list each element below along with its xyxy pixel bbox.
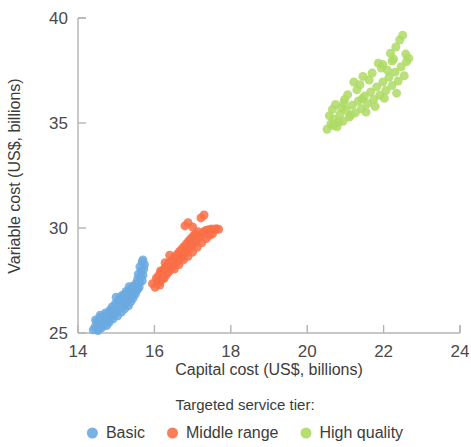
series-middle-range	[148, 210, 223, 291]
data-point	[339, 99, 348, 108]
data-point	[188, 222, 197, 231]
x-tick-label: 16	[145, 342, 164, 361]
data-point	[388, 57, 397, 66]
series-basic	[89, 255, 149, 335]
scatter-plot-canvas: 25303540 141618202224 Capital cost (US$,…	[0, 0, 471, 447]
data-point	[380, 94, 389, 103]
y-axis-ticks: 25303540	[49, 9, 86, 343]
data-point	[133, 285, 142, 294]
legend-title: Targeted service tier:	[175, 396, 314, 413]
data-point	[325, 111, 334, 120]
y-tick-label: 40	[49, 9, 68, 28]
data-point	[180, 221, 189, 230]
data-point	[401, 50, 410, 59]
data-point	[392, 89, 401, 98]
x-tick-label: 14	[69, 342, 88, 361]
scatter-chart-figure: 25303540 141618202224 Capital cost (US$,…	[0, 0, 471, 447]
data-point	[349, 78, 358, 87]
x-axis-ticks: 141618202224	[69, 325, 470, 361]
data-point	[197, 213, 206, 222]
data-point	[329, 121, 338, 130]
data-point	[352, 85, 361, 94]
x-tick-label: 22	[374, 342, 393, 361]
data-point	[371, 102, 380, 111]
x-axis-title: Capital cost (US$, billions)	[175, 361, 363, 378]
data-point	[358, 94, 367, 103]
data-point	[391, 42, 400, 51]
series-high-quality	[323, 31, 414, 134]
data-point	[358, 72, 367, 81]
legend-label-high-quality[interactable]: High quality	[320, 424, 404, 441]
data-point	[125, 282, 134, 291]
data-point	[138, 255, 147, 264]
legend-label-middle-range[interactable]: Middle range	[186, 424, 279, 441]
legend-marker-basic[interactable]	[87, 428, 98, 439]
legend-marker-middle-range[interactable]	[167, 428, 178, 439]
data-points-layer	[89, 31, 414, 335]
data-point	[346, 111, 355, 120]
data-point	[378, 60, 387, 69]
y-axis-title: Variable cost (US$, billions)	[6, 78, 23, 273]
x-tick-label: 18	[221, 342, 240, 361]
data-point	[400, 71, 409, 80]
data-point	[106, 307, 115, 316]
y-tick-label: 30	[49, 219, 68, 238]
data-point	[208, 229, 217, 238]
legend-marker-high-quality[interactable]	[301, 428, 312, 439]
y-tick-label: 35	[49, 114, 68, 133]
x-tick-label: 24	[451, 342, 470, 361]
x-tick-label: 20	[298, 342, 317, 361]
data-point	[158, 272, 167, 281]
data-point	[165, 251, 174, 260]
y-tick-label: 25	[49, 324, 68, 343]
legend-items: BasicMiddle rangeHigh quality	[87, 424, 403, 441]
data-point	[362, 108, 371, 117]
legend-label-basic[interactable]: Basic	[106, 424, 145, 441]
